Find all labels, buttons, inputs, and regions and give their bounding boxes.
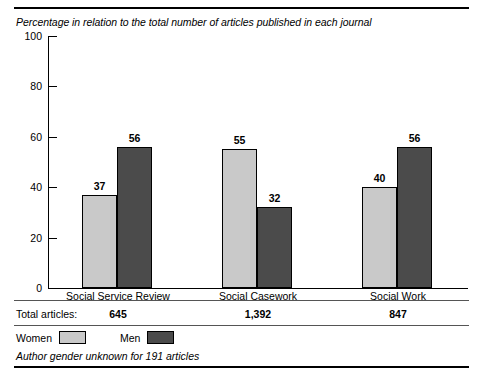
bar-value-label: 32 (269, 193, 281, 204)
y-axis-tick-label: 0 (6, 283, 42, 294)
y-axis-tick-label: 20 (6, 232, 42, 243)
top-rule (14, 7, 469, 9)
bar-group: 5532 (188, 36, 328, 288)
y-axis-tick-label: 80 (6, 81, 42, 92)
bar-value-label: 55 (234, 135, 246, 146)
totals-divider-rule (14, 325, 469, 326)
chart-legend: Women Men (16, 331, 174, 344)
bar-women-social-work: 40 (362, 187, 397, 288)
bar-men-social-casework: 32 (257, 207, 292, 288)
category-divider-rule (14, 300, 469, 301)
bar-women-social-casework: 55 (222, 149, 257, 288)
total-articles-value: 645 (38, 308, 198, 320)
y-axis-tick-label: 60 (6, 132, 42, 143)
bar-men-social-service-review: 56 (117, 147, 152, 288)
chart-subtitle: Percentage in relation to the total numb… (16, 16, 372, 28)
chart-footnote: Author gender unknown for 191 articles (16, 350, 199, 362)
legend-item-men: Men (120, 331, 174, 344)
total-articles-value: 1,392 (178, 308, 338, 320)
legend-label-women: Women (16, 332, 52, 344)
y-axis-tick-label: 100 (6, 31, 42, 42)
bar-value-label: 56 (409, 133, 421, 144)
legend-item-women: Women (16, 331, 86, 344)
bar-women-social-service-review: 37 (82, 195, 117, 288)
legend-label-men: Men (120, 332, 140, 344)
total-articles-value: 847 (318, 308, 478, 320)
bar-value-label: 40 (374, 173, 386, 184)
y-axis-tick-label: 40 (6, 182, 42, 193)
bar-value-label: 56 (129, 133, 141, 144)
bar-group: 3756 (48, 36, 188, 288)
bar-group: 4056 (328, 36, 468, 288)
legend-swatch-men-icon (147, 331, 174, 344)
legend-swatch-women-icon (59, 331, 86, 344)
chart-figure: Percentage in relation to the total numb… (0, 0, 481, 377)
bar-value-label: 37 (94, 181, 106, 192)
bottom-rule (14, 366, 469, 368)
x-axis-line (48, 288, 468, 289)
plot-area: 375655324056 (48, 36, 468, 288)
y-axis-tick (48, 288, 57, 289)
bar-men-social-work: 56 (397, 147, 432, 288)
